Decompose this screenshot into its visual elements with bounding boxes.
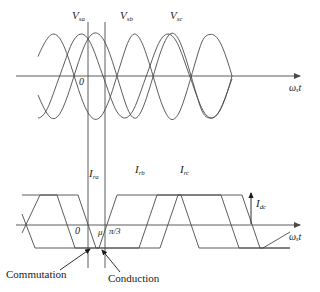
commutation-leader <box>60 249 90 270</box>
label-idc: Idc <box>256 198 266 210</box>
label-mu: μ <box>98 228 103 237</box>
figure-canvas <box>0 0 320 292</box>
label-pi-over-3: π/3 <box>109 227 121 236</box>
label-vsb: Vsb <box>120 10 133 22</box>
waveform-irb <box>22 195 290 248</box>
waveform-ira <box>22 195 290 248</box>
top-origin-label: 0 <box>79 77 84 87</box>
label-ira: Ira <box>89 168 99 180</box>
bottom-axis-label: ωst <box>289 232 301 243</box>
annotation-conduction: Conduction <box>108 272 159 284</box>
waveform-figure: Vsa Vsb Vsc 0 ωst Ira Irb Irc 0 μ π/3 Id… <box>0 0 320 292</box>
label-vsa: Vsa <box>72 10 85 22</box>
label-vsc: Vsc <box>170 10 182 22</box>
top-axis-label: ωst <box>289 83 301 94</box>
label-irc: Irc <box>180 164 189 176</box>
bottom-origin-label: 0 <box>75 226 80 236</box>
label-irb: Irb <box>135 164 145 176</box>
annotation-commutation: Commutation <box>6 268 67 280</box>
waveform-irc <box>22 195 290 248</box>
